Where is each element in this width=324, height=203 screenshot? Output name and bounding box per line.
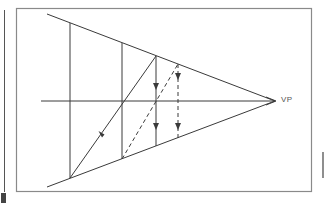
vertical-3-down-arrow-icon-upper <box>153 83 159 90</box>
top-converging-line <box>47 14 275 101</box>
perspective-diagram <box>0 0 324 203</box>
dashed-diagonal <box>122 64 178 159</box>
vertical-3-down-arrow-icon-lower <box>153 123 159 130</box>
vanishing-point-label: VP <box>281 95 292 104</box>
vertical-4-down-arrow-icon-lower <box>175 123 181 130</box>
diagram-frame <box>17 9 312 192</box>
solid-diagonal <box>70 56 156 178</box>
vertical-4-down-arrow-icon-upper <box>175 73 181 80</box>
bottom-converging-line <box>47 101 275 187</box>
left-corner-block <box>1 193 6 203</box>
